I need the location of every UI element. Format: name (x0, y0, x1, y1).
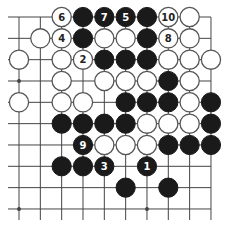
black-stone (116, 178, 135, 197)
black-stone: 3 (95, 157, 114, 176)
black-stone-disc (52, 157, 71, 176)
white-stone: 4 (52, 29, 71, 48)
white-stone-disc (52, 93, 71, 112)
black-stone (116, 50, 135, 69)
black-stone (116, 93, 135, 112)
go-board: 67510482931 (0, 0, 225, 229)
white-stone-disc (180, 71, 199, 90)
black-stone: 7 (95, 7, 114, 26)
white-stone (52, 71, 71, 90)
white-stone (137, 135, 156, 154)
move-number-label: 5 (122, 12, 129, 23)
white-stone-disc (159, 50, 178, 69)
star-point (17, 207, 21, 211)
white-stone (159, 114, 178, 133)
white-stone-disc (137, 135, 156, 154)
black-stone-disc (201, 135, 220, 154)
white-stone (180, 7, 199, 26)
black-stone (159, 71, 178, 90)
white-stone-disc (159, 114, 178, 133)
white-stone (137, 114, 156, 133)
black-stone-disc (116, 114, 135, 133)
black-stone (73, 7, 92, 26)
black-stone (52, 157, 71, 176)
white-stone-disc (73, 93, 92, 112)
black-stone (116, 114, 135, 133)
white-stone (180, 71, 199, 90)
white-stone-disc (95, 71, 114, 90)
white-stone-disc (137, 71, 156, 90)
white-stone (52, 93, 71, 112)
white-stone-disc (201, 50, 220, 69)
black-stone-disc (137, 50, 156, 69)
black-stone (201, 135, 220, 154)
black-stone: 5 (116, 7, 135, 26)
black-stone (73, 29, 92, 48)
black-stone-disc (201, 114, 220, 133)
black-stone (73, 114, 92, 133)
move-number-label: 3 (101, 161, 108, 172)
black-stone (137, 7, 156, 26)
move-number-label: 10 (161, 12, 175, 23)
white-stone (201, 50, 220, 69)
white-stone (95, 71, 114, 90)
move-number-label: 2 (80, 54, 87, 65)
black-stone-disc (95, 50, 114, 69)
white-stone (180, 93, 199, 112)
black-stone (137, 29, 156, 48)
white-stone-disc (180, 114, 199, 133)
white-stone (137, 71, 156, 90)
white-stone-disc (180, 93, 199, 112)
black-stone-disc (116, 93, 135, 112)
black-stone-disc (201, 93, 220, 112)
black-stone-disc (159, 93, 178, 112)
black-stone (95, 114, 114, 133)
white-stone (52, 50, 71, 69)
white-stone (180, 114, 199, 133)
black-stone-disc (52, 114, 71, 133)
black-stone-disc (95, 114, 114, 133)
black-stone (201, 93, 220, 112)
white-stone (9, 93, 28, 112)
black-stone-disc (137, 29, 156, 48)
move-number-label: 9 (80, 140, 87, 151)
white-stone-disc (9, 93, 28, 112)
black-stone-disc (73, 157, 92, 176)
black-stone-disc (159, 71, 178, 90)
black-stone: 9 (73, 135, 92, 154)
black-stone (159, 135, 178, 154)
black-stone-disc (137, 93, 156, 112)
white-stone (73, 93, 92, 112)
black-stone (52, 114, 71, 133)
move-number-label: 4 (58, 33, 65, 44)
black-stone (180, 135, 199, 154)
black-stone-disc (137, 7, 156, 26)
black-stone-disc (116, 50, 135, 69)
white-stone-disc (116, 29, 135, 48)
black-stone (159, 178, 178, 197)
white-stone-disc (31, 29, 50, 48)
move-number-label: 6 (58, 12, 65, 23)
white-stone: 6 (52, 7, 71, 26)
white-stone-disc (180, 50, 199, 69)
black-stone: 1 (137, 157, 156, 176)
white-stone-disc (52, 50, 71, 69)
white-stone (180, 50, 199, 69)
black-stone-disc (159, 178, 178, 197)
white-stone-disc (116, 71, 135, 90)
black-stone (201, 114, 220, 133)
white-stone-disc (137, 114, 156, 133)
black-stone-disc (116, 178, 135, 197)
black-stone-disc (73, 7, 92, 26)
move-number-label: 1 (143, 161, 150, 172)
white-stone (95, 29, 114, 48)
move-number-label: 8 (165, 33, 172, 44)
black-stone (73, 157, 92, 176)
white-stone-disc (180, 7, 199, 26)
white-stone-disc (95, 29, 114, 48)
white-stone: 8 (159, 29, 178, 48)
white-stone (180, 29, 199, 48)
black-stone (159, 93, 178, 112)
white-stone-disc (95, 135, 114, 154)
white-stone (159, 50, 178, 69)
